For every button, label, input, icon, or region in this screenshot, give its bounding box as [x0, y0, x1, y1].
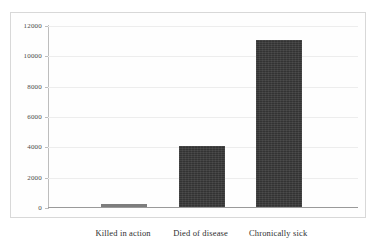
tick-mark: [45, 117, 48, 118]
value-axis-tick-label: 0: [38, 204, 42, 212]
value-axis-tick-label: 8000: [27, 83, 42, 91]
plot-frame: 020004000600080001000012000: [10, 12, 366, 218]
tick-mark: [45, 208, 48, 209]
value-axis-tick-label: 12000: [24, 22, 43, 30]
tick-mark: [45, 147, 48, 148]
bar: [256, 40, 302, 207]
gridline: [48, 26, 358, 27]
plot-area: 020004000600080001000012000: [48, 26, 358, 208]
category-axis-label: Chronically sick: [249, 228, 307, 238]
gridline: [48, 56, 358, 57]
value-axis-tick-label: 2000: [27, 174, 42, 182]
tick-mark: [45, 87, 48, 88]
value-axis-tick-label: 10000: [24, 52, 43, 60]
category-axis-label: Died of disease: [173, 228, 228, 238]
tick-mark: [45, 26, 48, 27]
gridline: [48, 117, 358, 118]
category-axis-line: [48, 207, 358, 208]
category-axis-labels: Killed in actionDied of diseaseChronical…: [47, 228, 357, 244]
gridline: [48, 87, 358, 88]
tick-mark: [45, 56, 48, 57]
tick-mark: [45, 178, 48, 179]
bar: [101, 204, 147, 207]
value-axis-tick-label: 4000: [27, 143, 42, 151]
bar-chart-figure: 020004000600080001000012000 Killed in ac…: [0, 0, 384, 251]
bar: [179, 146, 225, 207]
value-axis-tick-label: 6000: [27, 113, 42, 121]
category-axis-label: Killed in action: [95, 228, 150, 238]
